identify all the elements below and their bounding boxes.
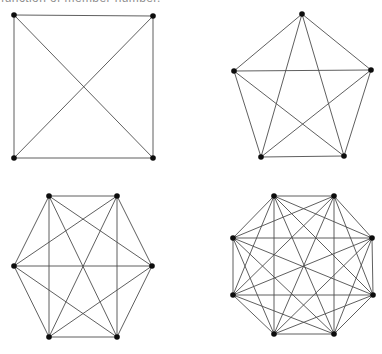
graph-edge: [372, 238, 373, 295]
graph-edge: [274, 196, 373, 295]
graph-node: [11, 155, 17, 161]
graph-node: [150, 13, 156, 19]
complete-graphs-figure: [0, 0, 382, 354]
graph-edge: [334, 295, 373, 334]
graph-node: [258, 154, 264, 160]
graph-edge: [233, 238, 334, 334]
graph-node: [230, 292, 236, 298]
graph-edge: [14, 15, 153, 16]
graph-edge: [334, 238, 372, 334]
graph-node: [46, 334, 52, 340]
graph-edge: [344, 70, 371, 156]
graph-node: [341, 153, 347, 159]
figure-page: function of member number.: [0, 0, 382, 354]
graph-edge: [117, 266, 152, 337]
graph-edge: [261, 70, 371, 157]
graph-node: [150, 155, 156, 161]
graph-edge: [334, 196, 372, 238]
complete-graph-5-members: [231, 11, 374, 160]
complete-graph-6-members: [11, 193, 155, 340]
graph-edge: [233, 196, 274, 295]
graph-edge: [274, 238, 372, 334]
complete-graph-4-members: [11, 12, 156, 161]
graph-node: [114, 334, 120, 340]
graph-edge: [233, 295, 274, 334]
graph-edge: [234, 70, 371, 71]
graph-node: [271, 331, 277, 337]
graph-edge: [14, 266, 117, 337]
complete-graph-8-members: [230, 193, 376, 337]
graph-node: [299, 11, 305, 17]
graph-node: [331, 331, 337, 337]
graph-node: [230, 235, 236, 241]
caption-fragment: function of member number.: [1, 0, 261, 5]
graph-node: [149, 263, 155, 269]
graph-edge: [14, 196, 49, 266]
graph-edge: [234, 71, 261, 157]
graph-edge: [261, 14, 302, 157]
graph-node: [370, 292, 376, 298]
graph-edge: [234, 14, 302, 71]
graph-node: [11, 263, 17, 269]
graph-edge: [274, 196, 372, 238]
caption-text: function of member number.: [1, 0, 261, 5]
graph-edge: [49, 266, 152, 337]
graph-node: [11, 12, 17, 18]
graph-node: [231, 68, 237, 74]
graph-node: [368, 67, 374, 73]
graph-edge: [14, 196, 117, 266]
graph-edge: [261, 156, 344, 157]
graph-node: [271, 193, 277, 199]
graph-edge: [117, 196, 152, 266]
graph-edge: [302, 14, 371, 70]
graph-edge: [302, 14, 344, 156]
graph-edge: [233, 196, 334, 295]
graph-node: [331, 193, 337, 199]
graph-edge: [233, 295, 334, 334]
graph-node: [369, 235, 375, 241]
graph-node: [46, 193, 52, 199]
graph-edge: [14, 266, 49, 337]
graph-node: [114, 193, 120, 199]
graph-edge: [234, 71, 344, 156]
graph-edge: [233, 196, 274, 238]
